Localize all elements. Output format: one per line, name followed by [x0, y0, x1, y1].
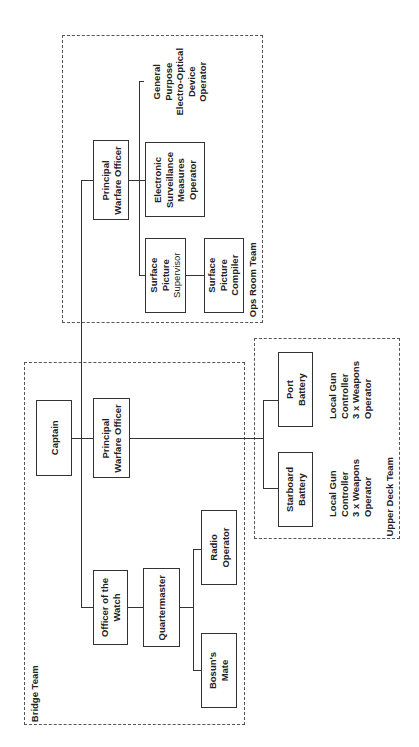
node-label: Device	[186, 48, 198, 116]
starboard-battery-crew-text: Local Gun Controller 3 x Weapons Operato…	[322, 448, 378, 528]
node-label: Picture	[160, 253, 172, 298]
port-battery-crew-text: Local Gun Controller 3 x Weapons Operato…	[322, 350, 378, 430]
connector	[193, 670, 201, 671]
node-label: Operator	[219, 527, 231, 567]
node-label: Port	[284, 373, 296, 406]
surface-picture-compiler-node[interactable]: Surface Picture Compiler	[204, 238, 244, 313]
node-label: Captain	[48, 421, 60, 456]
connector	[263, 488, 278, 489]
node-label: Electro-Optical	[174, 48, 186, 116]
esm-operator-node[interactable]: Electronic Surveillance Measures Operato…	[145, 142, 205, 217]
node-label: Warfare Officer	[111, 146, 123, 214]
node-label: Measures	[175, 152, 187, 208]
node-label: 3 x Weapons	[350, 361, 362, 419]
node-label: Principal	[100, 146, 112, 214]
radio-operator-node[interactable]: Radio Operator	[201, 510, 237, 585]
node-label: Operator	[362, 459, 374, 517]
connector	[180, 607, 193, 608]
node-label: Quartermaster	[156, 575, 168, 640]
surface-picture-supervisor-node[interactable]: Surface Picture Supervisor	[145, 238, 186, 313]
node-label: Controller	[339, 459, 351, 517]
node-label: Electronic	[152, 152, 164, 208]
node-label: Officer of the	[99, 578, 111, 637]
node-label: Warfare Officer	[112, 404, 124, 472]
node-label: Picture	[218, 255, 230, 296]
starboard-battery-node[interactable]: Starboard Battery	[278, 452, 313, 527]
connector	[139, 81, 144, 82]
officer-of-the-watch-node[interactable]: Officer of the Watch	[93, 570, 128, 645]
connector	[193, 549, 201, 550]
connector	[72, 438, 93, 439]
connector	[81, 607, 93, 608]
node-label: Watch	[111, 578, 123, 637]
connector	[139, 81, 140, 276]
node-label: 3 x Weapons	[350, 459, 362, 517]
connector	[81, 180, 93, 181]
bosuns-mate-node[interactable]: Bosun's Mate	[201, 633, 237, 708]
node-label: Bosun's	[208, 652, 220, 689]
ops-principal-warfare-officer-node[interactable]: Principal Warfare Officer	[93, 140, 129, 220]
node-label: Mate	[219, 652, 231, 689]
node-label: Surveillance	[163, 152, 175, 208]
captain-node[interactable]: Captain	[36, 400, 72, 476]
connector	[263, 400, 278, 401]
connector	[186, 275, 204, 276]
upper-deck-team-label: Upper Deck Team	[382, 457, 398, 537]
connector	[129, 180, 139, 181]
node-label: General	[151, 48, 163, 116]
connector	[130, 438, 263, 439]
node-label: Local Gun	[327, 361, 339, 419]
node-label: Surface	[207, 255, 219, 296]
gpeod-operator-text: General Purpose Electro-Optical Device O…	[148, 32, 212, 132]
connector	[193, 549, 194, 671]
node-label: Surface	[148, 253, 160, 298]
node-label: Radio	[208, 527, 220, 567]
bridge-principal-warfare-officer-node[interactable]: Principal Warfare Officer	[93, 398, 130, 478]
port-battery-node[interactable]: Port Battery	[278, 352, 313, 427]
node-label: Local Gun	[327, 459, 339, 517]
connector	[81, 180, 82, 608]
node-label: Operator	[362, 361, 374, 419]
quartermaster-node[interactable]: Quartermaster	[143, 568, 180, 647]
node-label: Principal	[100, 404, 112, 472]
node-label: Battery	[296, 373, 308, 406]
connector	[128, 607, 143, 608]
node-label: Battery	[296, 467, 308, 512]
connector	[263, 400, 264, 489]
node-label: Controller	[339, 361, 351, 419]
ops-room-team-label: Ops Room Team	[244, 245, 260, 315]
node-label: Supervisor	[171, 253, 183, 298]
node-label: Compiler	[230, 255, 242, 296]
node-label: Purpose	[163, 48, 175, 116]
node-label: Starboard	[284, 467, 296, 512]
node-label: Operator	[186, 152, 198, 208]
node-label: Operator	[197, 48, 209, 116]
bridge-team-label: Bridge Team	[26, 665, 42, 723]
